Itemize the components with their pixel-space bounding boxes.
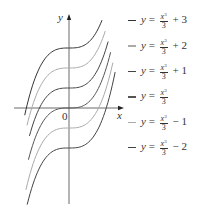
legend-swatch-icon (128, 45, 136, 46)
legend-swatch-icon (128, 147, 136, 148)
legend-item: y = x33 + 1 (128, 59, 212, 84)
axes: y x 0 (14, 11, 124, 204)
legend-fraction: x33 (160, 138, 168, 157)
legend-equation: y = x33 + 2 (141, 37, 187, 56)
curve-series-5 (27, 72, 115, 205)
legend-fraction: x33 (160, 37, 168, 56)
legend-item: y = x33 + 3 (128, 8, 212, 33)
legend: y = x33 + 3y = x33 + 2y = x33 + 1y = x33… (128, 8, 212, 160)
x-axis-label: x (116, 109, 122, 121)
legend-fraction: x33 (160, 11, 168, 30)
curves (25, 20, 115, 204)
legend-equation: y = x33 (141, 87, 170, 106)
legend-item: y = x33 + 2 (128, 33, 212, 58)
legend-item: y = x33 − 1 (128, 110, 212, 135)
legend-swatch-icon (128, 96, 136, 97)
y-axis-label: y (57, 11, 63, 23)
origin-label: 0 (62, 110, 68, 122)
legend-fraction: x33 (160, 87, 168, 106)
legend-item: y = x33 (128, 84, 212, 109)
legend-equation: y = x33 − 2 (141, 138, 187, 157)
legend-swatch-icon (128, 20, 136, 21)
legend-swatch-icon (128, 71, 136, 72)
legend-equation: y = x33 + 3 (141, 11, 187, 30)
legend-equation: y = x33 + 1 (141, 62, 187, 81)
legend-swatch-icon (128, 122, 136, 123)
legend-fraction: x33 (160, 113, 168, 132)
legend-equation: y = x33 − 1 (141, 113, 187, 132)
legend-fraction: x33 (160, 62, 168, 81)
y-axis-arrow-icon (67, 14, 71, 20)
legend-item: y = x33 − 2 (128, 135, 212, 160)
